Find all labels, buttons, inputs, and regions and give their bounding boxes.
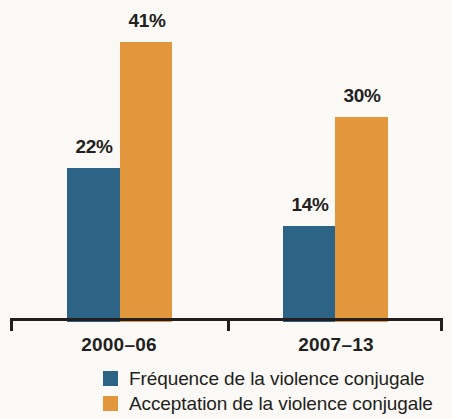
legend-swatch-icon-acceptation [103,396,118,411]
bar-2007-13-acceptation [335,117,388,322]
legend: Fréquence de la violence conjugale Accep… [103,366,433,416]
x-axis-tick-right [440,318,443,331]
x-axis-label-2007-13: 2007–13 [271,334,401,356]
legend-label-frequence: Fréquence de la violence conjugale [129,368,425,389]
value-label-2000-06-acceptation: 41% [116,10,178,32]
value-label-2007-13-acceptation: 30% [331,85,393,107]
plot-area: 22% 41% 14% 30% [0,0,452,322]
legend-label-acceptation: Acceptation de la violence conjugale [129,393,433,414]
x-axis-label-2000-06: 2000–06 [54,334,184,356]
bar-2000-06-frequence [67,168,120,322]
legend-swatch-icon-frequence [103,371,118,386]
x-axis-tick-left [10,318,13,331]
bar-2000-06-acceptation [120,42,172,322]
x-axis-tick-middle [227,318,230,331]
value-label-2007-13-frequence: 14% [279,194,341,216]
legend-item-acceptation: Acceptation de la violence conjugale [103,391,433,416]
legend-item-frequence: Fréquence de la violence conjugale [103,366,433,391]
bar-2007-13-frequence [283,226,335,322]
value-label-2000-06-frequence: 22% [63,136,125,158]
bar-chart: 22% 41% 14% 30% 2000–06 2007–13 Fréquenc… [0,0,452,419]
